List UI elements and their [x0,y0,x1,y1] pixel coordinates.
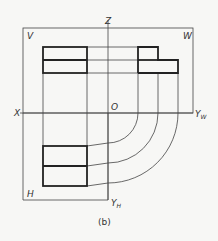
h-frame [23,113,108,200]
label-h: H [27,189,34,199]
projection-line [87,183,108,186]
transfer-arc [108,113,158,163]
label-origin: O [111,102,118,112]
label-w: W [183,31,193,41]
projection-line [87,163,108,166]
three-view-projection-diagram: Z V W X O YW H YH (b) [0,0,218,241]
projection-line [87,143,108,146]
label-yw: YW [195,109,208,120]
transfer-arc [108,113,138,143]
transfer-arc [108,113,178,183]
label-z: Z [104,16,112,26]
label-v: V [27,31,34,41]
label-x: X [13,108,21,118]
figure-caption: (b) [98,217,111,227]
label-yh: YH [111,198,122,209]
